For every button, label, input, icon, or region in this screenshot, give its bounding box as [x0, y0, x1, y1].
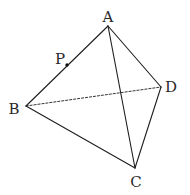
point-p-dot: [65, 63, 68, 66]
vertex-label-a: A: [102, 8, 114, 26]
tetrahedron-diagram: A B C D P: [0, 0, 190, 195]
point-label-p: P: [55, 50, 65, 68]
edges-group: [26, 26, 161, 168]
points-group: [65, 63, 68, 66]
vertex-label-d: D: [165, 78, 177, 96]
edge-bc: [26, 106, 135, 168]
edge-ac: [108, 26, 135, 168]
labels-group: A B C D P: [8, 8, 177, 191]
vertex-label-b: B: [8, 100, 19, 118]
vertex-label-c: C: [130, 173, 141, 191]
edge-ad: [108, 26, 161, 87]
edge-cd: [135, 87, 161, 168]
edge-bd-dashed: [26, 87, 161, 106]
